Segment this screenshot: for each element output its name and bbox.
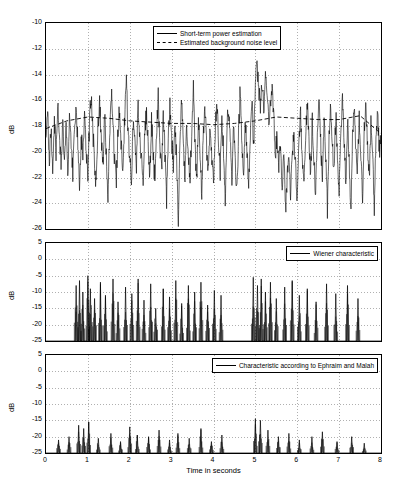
y-tick-label: 0	[19, 366, 42, 373]
series-solid	[46, 61, 381, 227]
y-tick-label: 5	[19, 238, 42, 245]
figure: dB Short-term power estimation Estimated…	[0, 0, 402, 483]
y-tick-label: -18	[19, 121, 42, 128]
panel-2-ylabel: dB	[7, 291, 16, 300]
x-tick-label: 8	[372, 456, 388, 463]
x-tick-label: 1	[79, 456, 95, 463]
legend-label: Estimated background noise level	[180, 38, 277, 47]
x-tick-label: 4	[205, 456, 221, 463]
legend-label: Wiener characteristic	[313, 249, 374, 258]
y-tick-label: -22	[19, 173, 42, 180]
y-tick-label: 5	[19, 350, 42, 357]
y-tick-label: -10	[19, 287, 42, 294]
legend-line-solid-icon	[290, 253, 310, 254]
y-tick-label: -14	[19, 70, 42, 77]
plot-curves	[46, 23, 381, 229]
legend-entry: Short-term power estimation	[157, 29, 277, 38]
legend-line-dashed-icon	[157, 42, 177, 43]
legend-line-solid-icon	[216, 365, 236, 366]
y-tick-label: -20	[19, 320, 42, 327]
x-tick-label: 6	[288, 456, 304, 463]
panel-1-plot	[45, 22, 382, 230]
panel-1-legend: Short-term power estimation Estimated ba…	[153, 26, 281, 50]
legend-label: Short-term power estimation	[180, 29, 262, 38]
y-tick-label: -10	[19, 18, 42, 25]
legend-entry: Estimated background noise level	[157, 38, 277, 47]
x-tick-label: 0	[37, 456, 53, 463]
y-tick-label: -5	[19, 271, 42, 278]
panel-1-ylabel: dB	[7, 125, 16, 134]
y-tick-label: -15	[19, 303, 42, 310]
panel-3-legend: Characteristic according to Ephraim and …	[212, 358, 378, 373]
x-tick-label: 5	[246, 456, 262, 463]
y-tick-label: -26	[19, 224, 42, 231]
legend-entry: Wiener characteristic	[290, 249, 374, 258]
y-tick-label: -15	[19, 415, 42, 422]
panel-3-ylabel: dB	[7, 403, 16, 412]
y-tick-label: -10	[19, 399, 42, 406]
y-tick-label: 0	[19, 254, 42, 261]
x-tick-label: 2	[121, 456, 137, 463]
y-tick-label: -25	[19, 336, 42, 343]
panel-3-xlabel: Time in seconds	[179, 466, 249, 475]
y-tick-label: -5	[19, 383, 42, 390]
y-tick-label: -25	[19, 448, 42, 455]
y-tick-label: -12	[19, 44, 42, 51]
legend-line-solid-icon	[157, 33, 177, 34]
legend-label: Characteristic according to Ephraim and …	[239, 361, 374, 370]
y-tick-label: -16	[19, 95, 42, 102]
panel-2-legend: Wiener characteristic	[286, 246, 378, 261]
series-solid	[46, 419, 381, 453]
y-tick-label: -24	[19, 198, 42, 205]
x-tick-label: 7	[330, 456, 346, 463]
y-tick-label: -20	[19, 147, 42, 154]
y-tick-label: -20	[19, 432, 42, 439]
x-tick-label: 3	[163, 456, 179, 463]
legend-entry: Characteristic according to Ephraim and …	[216, 361, 374, 370]
